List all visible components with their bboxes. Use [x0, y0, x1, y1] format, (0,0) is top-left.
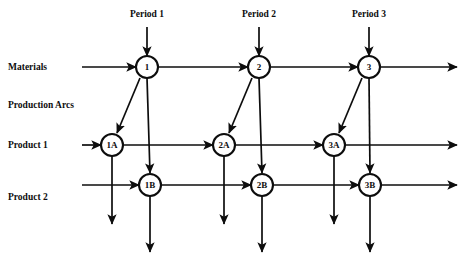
node-3-label: 3 [367, 62, 372, 72]
node-2a-label: 2A [219, 140, 231, 150]
node-2: 2 [248, 56, 270, 78]
row-label-production-arcs: Production Arcs [8, 100, 74, 110]
period-3-label: Period 3 [352, 9, 386, 19]
node-1a-label: 1A [107, 140, 119, 150]
edge-production-arc-3-to-3a [339, 78, 362, 133]
node-3: 3 [358, 56, 380, 78]
edge-production-arc-2-to-2a [229, 78, 252, 133]
production-network-diagram: 1 2 3 1A 2A 3A 1B 2B [0, 0, 470, 263]
edge-production-arc-1-to-1a [117, 78, 140, 133]
period-2-label: Period 2 [242, 9, 276, 19]
node-1a: 1A [101, 134, 123, 156]
node-3b: 3B [359, 174, 381, 196]
row-label-materials: Materials [8, 62, 47, 72]
node-3a: 3A [323, 134, 345, 156]
node-2-label: 2 [257, 62, 262, 72]
edge-production-arc-3-to-3b [369, 78, 370, 173]
node-1b: 1B [139, 174, 161, 196]
edge-production-arc-2-to-2b [259, 78, 262, 173]
row-label-product-1: Product 1 [8, 140, 48, 150]
row-label-product-2: Product 2 [8, 192, 48, 202]
node-3b-label: 3B [365, 180, 376, 190]
node-2b: 2B [251, 174, 273, 196]
node-2b-label: 2B [257, 180, 268, 190]
period-1-label: Period 1 [130, 9, 164, 19]
node-1: 1 [136, 56, 158, 78]
node-2a: 2A [213, 134, 235, 156]
edge-production-arc-1-to-1b [147, 78, 150, 173]
node-1-label: 1 [145, 62, 150, 72]
diagram-canvas: 1 2 3 1A 2A 3A 1B 2B [0, 0, 470, 263]
node-3a-label: 3A [329, 140, 341, 150]
node-1b-label: 1B [145, 180, 156, 190]
